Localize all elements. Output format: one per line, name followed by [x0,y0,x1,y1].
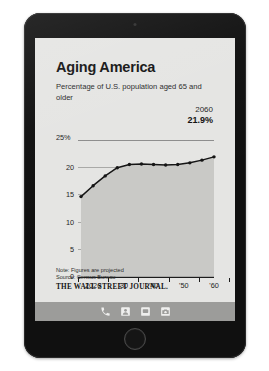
messages-icon[interactable] [140,306,151,317]
front-camera-icon [134,23,137,26]
chart-source: Source: Census Bureau [56,274,124,281]
x-axis-tick-mark [199,278,200,282]
publisher-logo: THE WALL STREET JOURNAL. [56,283,168,291]
home-button[interactable] [124,328,146,350]
y-axis-tick-label: 10 [66,217,74,226]
x-axis-tick-mark [138,278,139,282]
series-area-fill [81,157,214,276]
app-dock [35,302,235,321]
data-point [200,158,203,161]
y-axis-tick-label: 20 [66,163,74,172]
camera-icon[interactable] [160,306,171,317]
y-axis-tick-label: 5 [70,244,74,253]
contacts-icon[interactable] [120,306,131,317]
x-axis-tick-label: '60 [209,281,219,290]
data-point [140,162,143,165]
article-content: Aging America Percentage of U.S. populat… [35,38,235,302]
data-point [212,155,215,158]
x-axis-tick-mark [229,278,230,282]
aging-america-chart: 25% 05101520 2020'30'40'50'60 [56,131,216,283]
chart-note: Note: Figures are projected [56,267,124,274]
data-point [91,184,94,187]
chart-notes: Note: Figures are projected Source: Cens… [56,267,124,282]
callout-value-label: 21.9% [187,115,213,126]
x-axis-tick-mark [169,278,170,282]
tablet-screen[interactable]: Aging America Percentage of U.S. populat… [35,38,235,321]
data-point [128,163,131,166]
data-point [176,163,179,166]
y-axis-top-label: 25% [56,133,71,142]
article-subtitle: Percentage of U.S. population aged 65 an… [56,82,206,103]
data-point [164,163,167,166]
chart-callout: 2060 21.9% [187,105,213,126]
chart-plot-area: 05101520 [78,140,214,276]
y-axis-tick-label: 15 [66,190,74,199]
data-point [79,195,82,198]
phone-icon[interactable] [100,306,111,317]
page-title: Aging America [56,59,155,75]
callout-year-label: 2060 [187,105,213,115]
screenshot-root: Aging America Percentage of U.S. populat… [0,0,269,371]
x-axis-tick-label: '50 [179,281,189,290]
data-point [104,174,107,177]
data-point [188,161,191,164]
series-line [78,140,214,276]
data-point [152,163,155,166]
data-point [116,166,119,169]
tablet-device: Aging America Percentage of U.S. populat… [24,13,246,358]
